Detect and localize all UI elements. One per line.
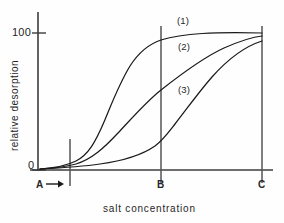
curve-3 xyxy=(40,41,262,169)
a-arrow-head xyxy=(58,181,64,188)
x-marker-label-c: C xyxy=(258,179,265,190)
curve-label-2: (2) xyxy=(178,41,190,52)
y-tick-label-100: 100 xyxy=(12,26,31,38)
y-axis-label: relative desorption xyxy=(9,46,20,166)
x-marker-label-a: A xyxy=(36,179,43,190)
x-axis-label: salt concentration xyxy=(103,203,196,214)
desorption-chart-figure: 100 0 relative desorption salt concentra… xyxy=(0,0,284,223)
x-marker-label-b: B xyxy=(157,179,164,190)
curve-label-1: (1) xyxy=(177,15,189,26)
curve-label-3: (3) xyxy=(178,84,190,95)
y-tick-label-0: 0 xyxy=(28,159,34,171)
